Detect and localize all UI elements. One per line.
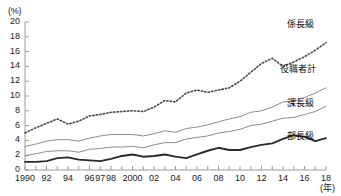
series-label-yakushokusha: 役職者計 bbox=[280, 62, 316, 75]
series-line-部長級 bbox=[25, 135, 326, 162]
series-line-役職者計 bbox=[25, 88, 326, 146]
series-lines bbox=[25, 43, 326, 162]
axis-lines bbox=[25, 22, 326, 170]
axis-tick-marks bbox=[25, 22, 326, 170]
series-label-bucho: 部長級 bbox=[287, 129, 314, 142]
series-line-課長級 bbox=[25, 106, 326, 156]
series-line-係長級 bbox=[25, 43, 326, 133]
wage-structure-chart: (%) (年) 02468101214161820 19909294969798… bbox=[0, 0, 341, 196]
series-label-kacho: 課長級 bbox=[287, 96, 314, 109]
series-label-kakaricho: 係長級 bbox=[287, 17, 314, 30]
